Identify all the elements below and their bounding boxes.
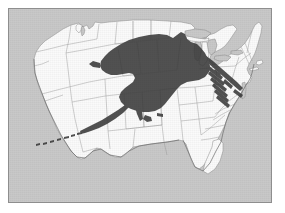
caption-clip [0,0,285,6]
figure-container [0,0,285,213]
long-island [249,67,259,71]
cape-cod [256,60,263,65]
us-map [9,9,271,202]
map-frame [8,8,272,203]
